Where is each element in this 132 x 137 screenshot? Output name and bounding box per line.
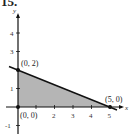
y-tick-4: 4 (10, 30, 14, 38)
x-tick-5: 5 (108, 112, 112, 120)
point-0-2 (16, 68, 20, 72)
y-axis-label: y (12, 7, 17, 15)
x-axis-label: x (124, 104, 129, 112)
x-tick-3: 3 (71, 112, 75, 120)
label-point-5-0: (5, 0) (105, 95, 123, 104)
y-tick-neg1: -1 (5, 122, 11, 130)
label-point-0-0: (0, 0) (20, 111, 38, 120)
x-axis-arrow-icon (119, 105, 124, 109)
y-tick-3: 3 (10, 48, 14, 56)
point-5-0 (108, 105, 112, 109)
y-axis-arrow-icon (16, 13, 20, 18)
y-tick-1: 1 (10, 85, 14, 93)
x-tick-4: 4 (89, 112, 93, 120)
label-point-0-2: (0, 2) (21, 59, 39, 68)
x-tick-2: 2 (52, 112, 56, 120)
chart: x y 2 3 4 5 -1 1 3 4 (0, 2) (0, 0) (5, 0… (0, 0, 132, 137)
point-0-0 (16, 105, 20, 109)
